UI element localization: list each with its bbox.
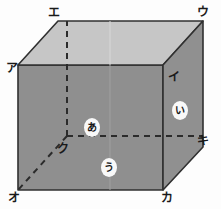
face-label-u: う: [101, 158, 117, 177]
vertex-label-ku: ク: [57, 143, 69, 155]
vertex-label-ka: カ: [161, 192, 173, 204]
vertex-label-ki: キ: [197, 135, 209, 147]
vertex-label-u: ウ: [197, 6, 209, 18]
face-label-i: い: [172, 101, 188, 120]
cube-drawing: [0, 0, 221, 209]
vertex-label-o: オ: [8, 192, 20, 204]
vertex-label-e: エ: [48, 7, 60, 19]
vertex-label-a: ア: [6, 62, 18, 74]
face-label-a: あ: [84, 118, 100, 137]
vertex-label-i: イ: [168, 71, 180, 83]
cube-figure: ア イ ウ エ オ カ キ ク あ い う: [0, 0, 221, 209]
